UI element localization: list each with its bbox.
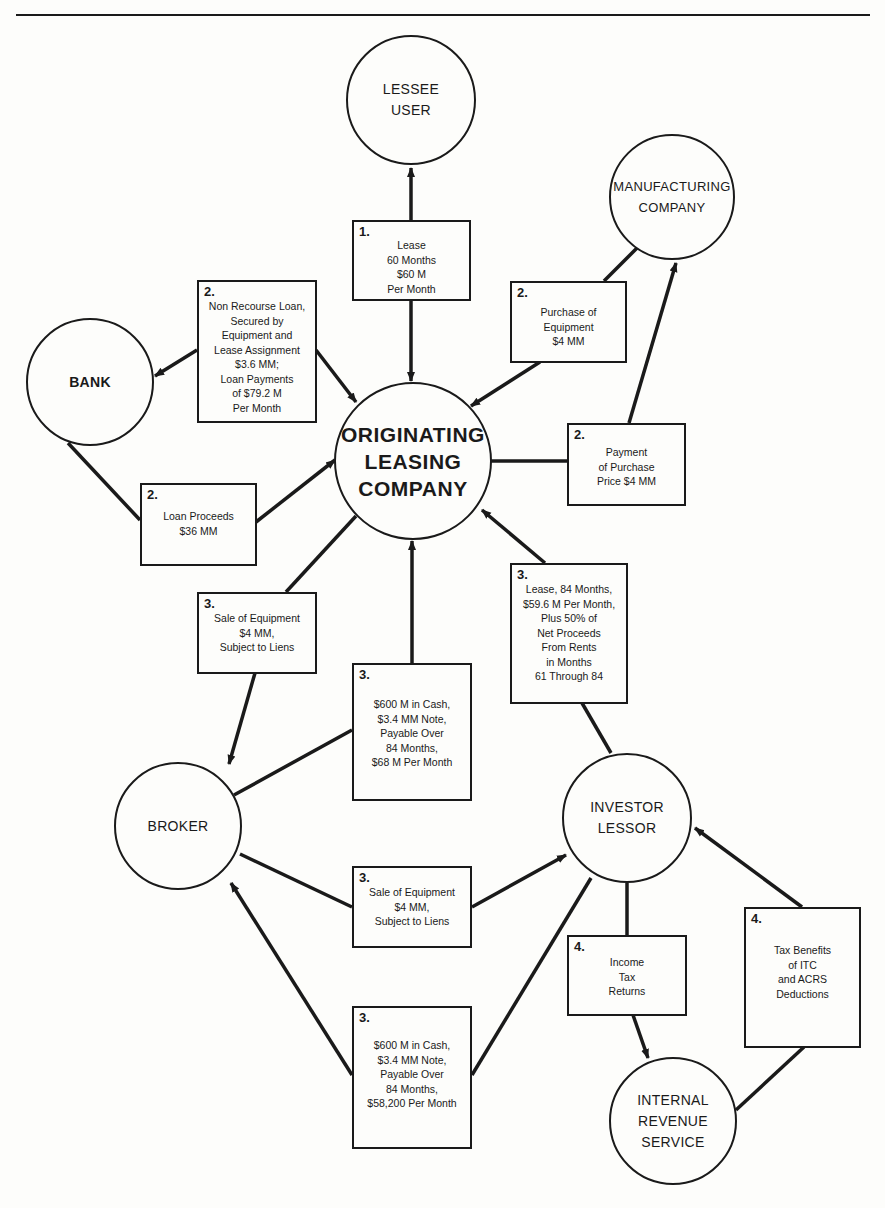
node-investor-lessor: INVESTOR LESSOR [562, 753, 692, 883]
box-text: Sale of Equipment [354, 885, 470, 900]
box-lease-84-months: 3. Lease, 84 Months, $59.6 M Per Month, … [510, 563, 628, 704]
box-text: of ITC [746, 958, 859, 973]
box-text: in Months [512, 655, 626, 670]
box-text: Deductions [746, 987, 859, 1002]
box-text: Secured by [199, 314, 315, 329]
box-text: 84 Months, [354, 741, 470, 756]
box-text: Tax [569, 970, 685, 985]
box-payment-of-purchase-price: 2. Payment of Purchase Price $4 MM [567, 423, 686, 506]
box-text: 84 Months, [354, 1082, 470, 1097]
step-number: 3. [359, 667, 370, 682]
box-text: Price $4 MM [569, 474, 684, 489]
step-number: 2. [147, 487, 158, 502]
step-number: 3. [359, 870, 370, 885]
box-text: Payable Over [354, 1067, 470, 1082]
box-text: $4 MM [512, 334, 625, 349]
box-income-tax-returns: 4. Income Tax Returns [567, 935, 687, 1016]
step-number: 2. [517, 285, 528, 300]
box-text: $3.4 MM Note, [354, 712, 470, 727]
node-label: LEASING [365, 448, 462, 475]
box-text: Subject to Liens [199, 640, 315, 655]
node-label: INVESTOR [590, 797, 664, 818]
box-text: Per Month [354, 282, 469, 297]
step-number: 2. [204, 284, 215, 299]
box-sale-of-equipment-middle: 3. Sale of Equipment $4 MM, Subject to L… [352, 866, 472, 948]
node-originating-leasing-company: ORIGINATING LEASING COMPANY [334, 382, 492, 540]
step-number: 3. [359, 1010, 370, 1025]
box-text: of Purchase [569, 460, 684, 475]
step-number: 4. [574, 939, 585, 954]
box-text: Purchase of [512, 305, 625, 320]
box-text: Equipment and [199, 328, 315, 343]
node-bank: BANK [26, 318, 154, 446]
node-label: COMPANY [639, 197, 706, 218]
box-text: $58,200 Per Month [354, 1096, 470, 1111]
box-text: $68 M Per Month [354, 755, 470, 770]
node-label: USER [391, 100, 431, 121]
box-text: $60 M [354, 267, 469, 282]
box-text: Loan Payments [199, 372, 315, 387]
box-text: $600 M in Cash, [354, 1038, 470, 1053]
box-text: $4 MM, [199, 626, 315, 641]
node-internal-revenue-service: INTERNAL REVENUE SERVICE [609, 1057, 737, 1185]
step-number: 1. [359, 224, 370, 239]
box-text: From Rents [512, 640, 626, 655]
node-label: SERVICE [641, 1132, 704, 1153]
node-label: ORIGINATING [341, 421, 485, 448]
box-text: Payment [569, 445, 684, 460]
box-text: Equipment [512, 320, 625, 335]
box-tax-benefits: 4. Tax Benefits of ITC and ACRS Deductio… [744, 907, 861, 1048]
node-label: LESSOR [598, 818, 657, 839]
box-text: 60 Months [354, 253, 469, 268]
box-sale-of-equipment-top: 3. Sale of Equipment $4 MM, Subject to L… [197, 592, 317, 674]
box-loan-proceeds: 2. Loan Proceeds $36 MM [140, 483, 257, 566]
step-number: 4. [751, 911, 762, 926]
step-number: 3. [517, 567, 528, 582]
box-text: Subject to Liens [354, 914, 470, 929]
node-label: BANK [69, 372, 111, 393]
box-cash-and-note-top: 3. $600 M in Cash, $3.4 MM Note, Payable… [352, 663, 472, 801]
node-label: MANUFACTURING [613, 176, 730, 197]
box-text: Returns [569, 984, 685, 999]
box-text: 61 Through 84 [512, 669, 626, 684]
box-nonrecourse-loan: 2. Non Recourse Loan, Secured by Equipme… [197, 280, 317, 423]
box-text: Lease Assignment [199, 343, 315, 358]
box-text: $4 MM, [354, 900, 470, 915]
box-lease-60-months: 1. Lease 60 Months $60 M Per Month [352, 220, 471, 301]
box-text: $3.4 MM Note, [354, 1053, 470, 1068]
node-label: BROKER [148, 816, 209, 837]
box-text: Lease, 84 Months, [512, 582, 626, 597]
box-text: Plus 50% of [512, 611, 626, 626]
box-purchase-of-equipment: 2. Purchase of Equipment $4 MM [510, 281, 627, 363]
box-text: Per Month [199, 401, 315, 416]
box-text: $600 M in Cash, [354, 697, 470, 712]
box-text: $59.6 M Per Month, [512, 597, 626, 612]
step-number: 3. [204, 596, 215, 611]
node-broker: BROKER [114, 762, 242, 890]
node-label: COMPANY [358, 475, 467, 502]
box-text: Loan Proceeds [142, 509, 255, 524]
box-text: Non Recourse Loan, [199, 299, 315, 314]
box-text: Lease [354, 238, 469, 253]
node-label: INTERNAL [637, 1090, 709, 1111]
node-lessee-user: LESSEE USER [346, 35, 476, 165]
box-text: $36 MM [142, 524, 255, 539]
box-text: Tax Benefits [746, 943, 859, 958]
node-label: REVENUE [638, 1111, 708, 1132]
node-manufacturing-company: MANUFACTURING COMPANY [609, 134, 735, 260]
box-cash-and-note-bottom: 3. $600 M in Cash, $3.4 MM Note, Payable… [352, 1006, 472, 1149]
box-text: of $79.2 M [199, 386, 315, 401]
node-label: LESSEE [383, 79, 439, 100]
box-text: $3.6 MM; [199, 357, 315, 372]
box-text: and ACRS [746, 972, 859, 987]
box-text: Income [569, 955, 685, 970]
step-number: 2. [574, 427, 585, 442]
box-text: Sale of Equipment [199, 611, 315, 626]
box-text: Net Proceeds [512, 626, 626, 641]
box-text: Payable Over [354, 726, 470, 741]
